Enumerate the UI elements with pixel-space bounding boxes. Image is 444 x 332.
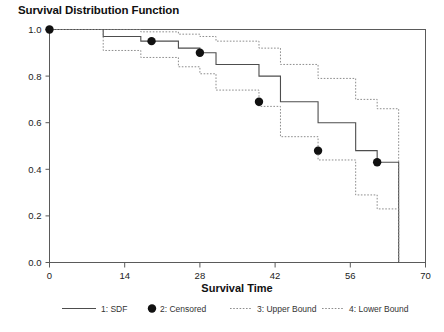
y-tick-label: 1.0	[28, 24, 41, 35]
series-layer	[50, 30, 399, 263]
x-tick-label: 0	[47, 270, 52, 281]
legend-item-label: 2: Censored	[160, 304, 207, 314]
y-tick-label: 0.2	[28, 210, 41, 221]
series-line	[50, 30, 399, 263]
censored-markers-layer	[45, 25, 381, 166]
censored-marker	[196, 49, 204, 57]
x-axis-title: Survival Time	[201, 282, 272, 294]
survival-plot-svg: 0.00.20.40.60.81.0 01428425670 Survival …	[0, 0, 444, 332]
legend-marker-censored	[148, 304, 156, 312]
y-tick-label: 0.6	[28, 117, 41, 128]
censored-marker	[45, 25, 53, 33]
legend-item-label: 4: Lower Bound	[349, 304, 409, 314]
censored-marker	[373, 158, 381, 166]
y-tick-label: 0.8	[28, 71, 41, 82]
x-tick-label: 56	[345, 270, 356, 281]
censored-marker	[314, 146, 322, 154]
chart-legend: 1: SDF2: Censored3: Upper Bound4: Lower …	[62, 304, 409, 314]
censored-marker	[255, 98, 263, 106]
x-tick-label: 42	[270, 270, 281, 281]
legend-item-label: 3: Upper Bound	[257, 304, 317, 314]
survival-chart-root: Survival Distribution Function 0.00.20.4…	[0, 0, 444, 332]
x-tick-label: 14	[119, 270, 130, 281]
y-axis-ticks: 0.00.20.40.60.81.0	[28, 24, 49, 268]
y-tick-label: 0.4	[28, 164, 41, 175]
y-tick-label: 0.0	[28, 257, 41, 268]
x-axis-ticks: 01428425670	[47, 263, 431, 281]
x-tick-label: 28	[195, 270, 206, 281]
legend-item-label: 1: SDF	[101, 304, 127, 314]
censored-marker	[147, 37, 155, 45]
x-tick-label: 70	[420, 270, 431, 281]
